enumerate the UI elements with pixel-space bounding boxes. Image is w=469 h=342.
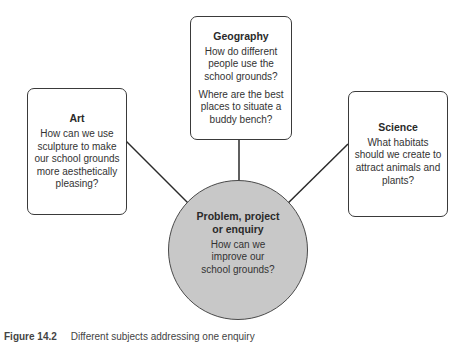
center-node-problem: Problem, project or enquiry How can we i… [168, 180, 308, 320]
center-title: Problem, project or enquiry [197, 210, 280, 236]
center-question: How can we improve our school grounds? [196, 239, 280, 277]
node-question: How do different people use the school g… [196, 46, 286, 84]
node-art: Art How can we use sculpture to make our… [27, 88, 127, 215]
node-question: How can we use sculpture to make our sch… [33, 128, 121, 191]
caption-text: Different subjects addressing one enquir… [71, 331, 255, 342]
caption-label: Figure 14.2 [4, 331, 57, 342]
node-science: Science What habitats should we create t… [348, 91, 448, 217]
node-question: What habitats should we create to attrac… [353, 137, 443, 187]
node-geography: Geography How do different people use th… [190, 16, 292, 140]
figure-caption: Figure 14.2Different subjects addressing… [4, 331, 255, 342]
center-title-line1: Problem, project [197, 210, 280, 223]
node-question: Where are the best places to situate a b… [193, 89, 289, 127]
node-title: Art [69, 112, 84, 124]
node-title: Science [378, 121, 418, 133]
center-title-line2: or enquiry [197, 223, 280, 236]
node-title: Geography [213, 30, 268, 42]
